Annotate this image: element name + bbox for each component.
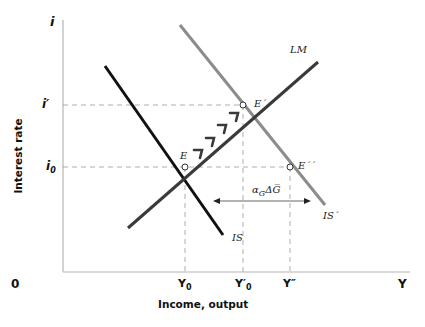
tick-sub: 0 <box>50 166 56 175</box>
tick-i0: i0 <box>46 159 56 175</box>
tick-sub: 0 <box>246 283 252 292</box>
e-double-prime-label: E´´ <box>298 160 315 171</box>
shift-annotation: αGΔG̅ <box>252 184 280 198</box>
tick-label: Y″ <box>283 277 296 290</box>
arrowhead-right-icon <box>304 198 311 204</box>
tick-y0: Y0 <box>178 277 192 292</box>
tick-label: i′ <box>42 97 49 111</box>
point-e <box>182 164 188 170</box>
tick-y-double-prime: Y″ <box>283 277 296 290</box>
arrowhead-left-icon <box>213 198 220 204</box>
x-axis-symbol: Y <box>398 277 407 291</box>
is-curve <box>105 66 223 235</box>
tick-y0-prime: Y′0 <box>235 277 251 292</box>
is-label: IS <box>232 232 243 243</box>
point-e-double-prime <box>287 164 293 170</box>
x-axis-title: Income, output <box>158 298 248 310</box>
is-lm-diagram <box>0 0 425 327</box>
tick-label: Y <box>178 277 186 290</box>
tick-label: Y′ <box>235 277 246 290</box>
tick-sub: 0 <box>186 283 192 292</box>
lm-curve <box>128 62 318 228</box>
delta-g: ΔG̅ <box>265 184 280 195</box>
origin-label: 0 <box>11 277 19 291</box>
e-label: E <box>180 150 187 161</box>
y-axis-symbol: i <box>50 14 54 29</box>
e-prime-label: E´ <box>254 98 266 109</box>
lm-label: LM <box>290 44 307 55</box>
alpha: α <box>252 184 259 195</box>
is-prime-label: IS´ <box>323 210 339 221</box>
point-e-prime <box>240 102 246 108</box>
y-axis-title: Interest rate <box>12 116 24 196</box>
tick-i-prime: i′ <box>42 97 49 111</box>
